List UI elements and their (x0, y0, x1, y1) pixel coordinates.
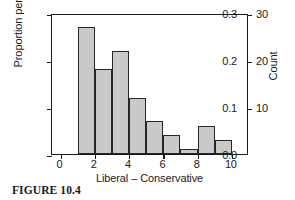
y-axis-tick (47, 156, 52, 157)
histogram-bar (78, 27, 95, 154)
histogram-bar (163, 135, 180, 154)
plot-area (51, 14, 248, 155)
y2-axis-tick (247, 15, 252, 16)
y-axis-tick (47, 62, 52, 63)
figure-container: 0.00.10.20.31020300246810 Proportion per… (0, 0, 295, 200)
histogram-bar (146, 121, 163, 154)
y2-axis-tick (247, 109, 252, 110)
x-axis-tick-label: 0 (49, 159, 71, 170)
x-axis-tick-label: 6 (151, 159, 173, 170)
y-axis-title: Proportion per bar (12, 0, 24, 84)
histogram-bar (112, 51, 129, 154)
y-axis-tick (47, 109, 52, 110)
y-axis-tick-label: 0.1 (203, 103, 237, 114)
histogram-bars (52, 15, 247, 154)
y2-axis-tick (247, 62, 252, 63)
x-axis-tick-label: 2 (83, 159, 105, 170)
x-axis-tick-label: 10 (220, 159, 242, 170)
y2-axis-title: Count (267, 36, 279, 96)
histogram-bar (129, 98, 146, 154)
y-axis-tick-label: 0.3 (203, 9, 237, 20)
histogram-bar (95, 69, 112, 154)
y-axis-tick-label: 0.2 (203, 56, 237, 67)
y2-axis-tick-label: 10 (256, 103, 278, 114)
figure-caption: FIGURE 10.4 (12, 184, 81, 196)
x-axis-title: Liberal – Conservative (51, 172, 248, 184)
x-axis-tick-label: 4 (117, 159, 139, 170)
y2-axis-tick-label: 30 (256, 9, 278, 20)
histogram-bar (180, 149, 197, 154)
x-axis-tick-label: 8 (186, 159, 208, 170)
y-axis-tick (47, 15, 52, 16)
